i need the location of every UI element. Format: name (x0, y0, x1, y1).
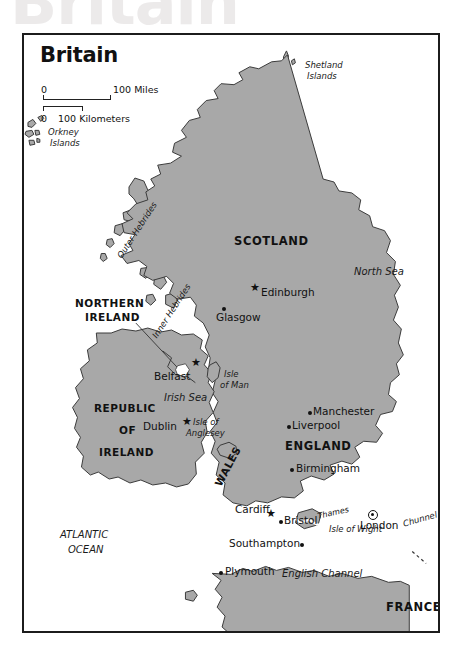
label-irish-sea: Irish Sea (164, 393, 207, 404)
label-isle-of-man-line1: Isle (224, 370, 239, 379)
label-liverpool: Liverpool (292, 420, 340, 431)
label-republic-line2: OF (119, 425, 136, 436)
label-bristol: Bristol (284, 515, 317, 526)
label-manchester: Manchester (313, 406, 374, 417)
scale-km-zero: 0 (41, 113, 47, 124)
label-english-channel: English Channel (282, 569, 362, 580)
chunnel-line (412, 552, 426, 564)
label-glasgow: Glasgow (216, 312, 261, 323)
channel-islands-shape (185, 590, 197, 601)
label-north-sea: North Sea (354, 267, 404, 278)
bristol-dot-icon (279, 520, 283, 524)
birmingham-dot-icon (290, 468, 294, 472)
liverpool-dot-icon (287, 425, 291, 429)
label-edinburgh: Edinburgh (261, 287, 315, 298)
plymouth-dot-icon (219, 571, 223, 575)
label-republic-line1: REPUBLIC (94, 403, 156, 414)
label-isle-of-man-line2: of Man (220, 381, 249, 390)
map-frame[interactable]: Britain 0 100 Miles 0 100 Kilometers She… (22, 33, 440, 633)
scale-km-label: 100 Kilometers (58, 113, 130, 124)
label-scotland: SCOTLAND (234, 235, 309, 247)
label-orkney-line1: Orkney (48, 128, 79, 137)
scale-miles-tick-right (110, 95, 111, 100)
label-northern-ireland-line2: IRELAND (85, 312, 140, 323)
scale-miles-tick-left (43, 95, 44, 100)
southampton-dot-icon (300, 543, 304, 547)
label-belfast: Belfast (154, 371, 190, 382)
scale-km-line (43, 106, 83, 107)
scale-miles-zero: 0 (41, 84, 47, 95)
label-orkney-line2: Islands (50, 139, 80, 148)
label-atlantic-line2: OCEAN (68, 545, 104, 556)
scale-km-tick-left (43, 106, 44, 111)
manchester-dot-icon (308, 411, 312, 415)
label-cardiff: Cardiff (235, 504, 270, 515)
label-anglesey-line2: Anglesey (186, 429, 225, 438)
label-southampton: Southampton (229, 538, 300, 549)
label-dublin: Dublin (143, 421, 177, 432)
label-anglesey-line1: Isle of (193, 418, 218, 427)
scale-miles-line (43, 99, 111, 100)
scale-miles-label: 100 Miles (113, 84, 158, 95)
label-republic-line3: IRELAND (99, 447, 154, 458)
scale-bar: 0 100 Miles 0 100 Kilometers (41, 84, 201, 130)
scale-km-tick-right (82, 106, 83, 111)
label-plymouth: Plymouth (225, 566, 275, 577)
label-atlantic-line1: ATLANTIC (60, 530, 108, 541)
label-london: London (360, 520, 399, 531)
label-england: ENGLAND (285, 440, 352, 452)
map-title: Britain (40, 43, 118, 67)
label-northern-ireland-line1: NORTHERN (75, 298, 144, 309)
label-birmingham: Birmingham (296, 463, 360, 474)
label-shetland-line1: Shetland (305, 61, 343, 70)
label-france: FRANCE (386, 601, 440, 613)
label-shetland-line2: Islands (307, 72, 337, 81)
